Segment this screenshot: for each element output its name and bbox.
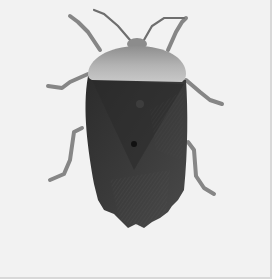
photo-frame: [0, 0, 272, 279]
antennae: [94, 10, 184, 40]
shield-bug-photo: [0, 0, 272, 279]
pronotum: [88, 46, 186, 82]
